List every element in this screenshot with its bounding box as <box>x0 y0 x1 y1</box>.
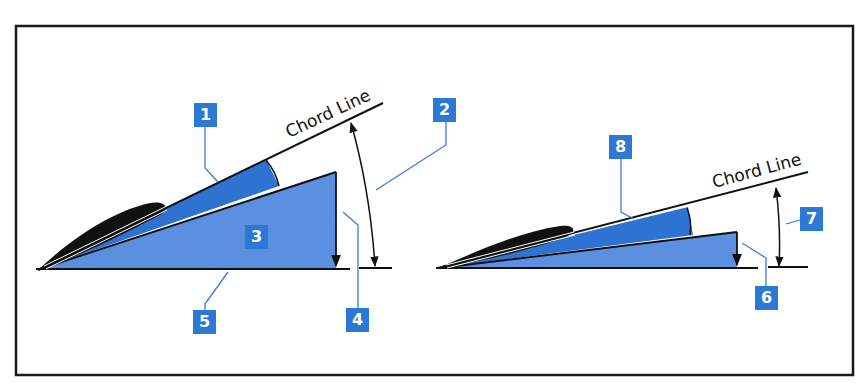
leader-7 <box>786 220 800 224</box>
left-diagram: Chord Line <box>36 85 446 310</box>
leader-5 <box>205 272 228 310</box>
callout-2: 2 <box>433 98 456 122</box>
leader-1 <box>205 127 218 182</box>
callout-7: 7 <box>800 207 823 231</box>
callout-6: 6 <box>755 286 778 310</box>
right-diagram: Chord Line <box>436 149 808 286</box>
leader-2 <box>376 122 446 190</box>
callout-3: 3 <box>245 225 268 249</box>
callout-8: 8 <box>609 135 632 159</box>
angle-arc-left <box>351 123 375 266</box>
leader-4 <box>343 212 358 308</box>
angle-of-attack-diagram: Chord Line Chord Line <box>0 0 858 388</box>
leader-8 <box>621 159 634 219</box>
figure-frame <box>16 26 853 375</box>
callout-5: 5 <box>193 310 216 334</box>
angle-arc-right <box>776 188 780 266</box>
callout-1: 1 <box>194 103 217 127</box>
leader-6 <box>742 243 766 286</box>
callout-4: 4 <box>346 308 369 332</box>
